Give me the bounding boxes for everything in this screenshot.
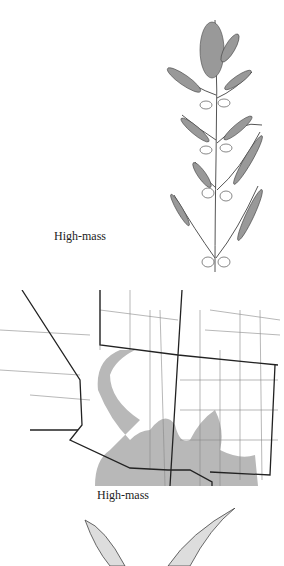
range-map-icon xyxy=(0,290,284,486)
leaf-pair-icon xyxy=(80,508,250,566)
leaf-illustration xyxy=(80,508,250,566)
map-caption: High-mass xyxy=(97,488,149,503)
plant-illustration xyxy=(160,10,270,278)
range-map xyxy=(0,290,284,486)
plant-caption: High-mass xyxy=(54,229,106,244)
plant-inflorescence-icon xyxy=(160,10,270,278)
